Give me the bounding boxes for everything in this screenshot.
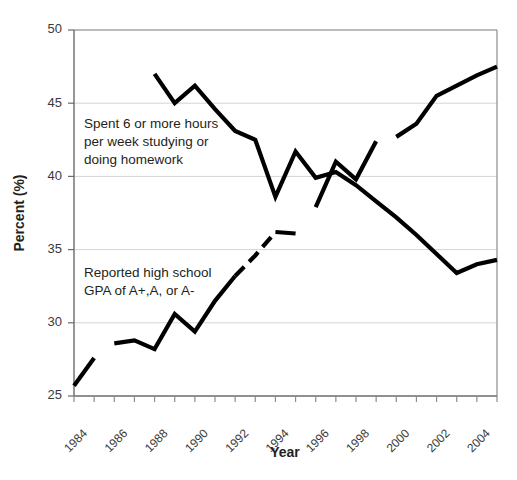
x-tick-label: 2002 <box>424 426 453 455</box>
y-axis-title: Percent (%) <box>11 174 27 251</box>
data-series <box>74 67 497 386</box>
annotation-line: per week studying or <box>84 134 209 149</box>
x-tick-label: 1990 <box>182 426 211 455</box>
x-tick-label: 1988 <box>142 426 171 455</box>
annotation-line: GPA of A+,A, or A- <box>84 283 194 298</box>
y-tick-label: 40 <box>48 168 62 183</box>
series-line <box>235 232 275 276</box>
annotation-line: Spent 6 or more hours <box>84 116 219 131</box>
y-tick-label: 45 <box>48 95 62 110</box>
x-tick-label: 1996 <box>303 426 332 455</box>
y-tick-label: 25 <box>48 387 62 402</box>
annotation-line: doing homework <box>84 152 183 167</box>
x-tick-marks <box>74 396 497 402</box>
annotation-study-hours: Spent 6 or more hours per week studying … <box>84 116 219 167</box>
y-tick-marks <box>68 30 74 396</box>
y-tick-label: 30 <box>48 314 62 329</box>
y-tick-label: 50 <box>48 21 62 36</box>
x-tick-label: 1992 <box>222 426 251 455</box>
line-chart-svg: 50 45 40 35 30 25 1984198619881990199219… <box>0 0 517 480</box>
y-tick-label: 35 <box>48 241 62 256</box>
series-line <box>396 67 497 137</box>
x-tick-label: 1984 <box>61 426 90 455</box>
data-series-layer <box>74 67 497 386</box>
x-tick-label: 2000 <box>384 426 413 455</box>
series-line <box>74 358 94 386</box>
annotation-line: Reported high school <box>84 265 212 280</box>
series-line <box>155 74 497 273</box>
data-series <box>155 74 497 273</box>
series-line <box>275 232 295 233</box>
annotation-gpa: Reported high school GPA of A+,A, or A- <box>84 265 212 298</box>
y-tick-labels: 50 45 40 35 30 25 <box>48 21 62 402</box>
x-axis-title: Year <box>270 444 300 460</box>
x-tick-label: 1998 <box>343 426 372 455</box>
chart-figure: 50 45 40 35 30 25 1984198619881990199219… <box>0 0 517 480</box>
x-tick-label: 2004 <box>464 426 493 455</box>
x-tick-label: 1986 <box>102 426 131 455</box>
